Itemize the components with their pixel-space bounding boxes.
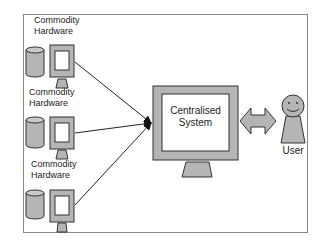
- diagram-canvas: Commodity Hardware Commodity Hardware Co…: [0, 0, 319, 247]
- hw2-label-line1: Commodity: [29, 87, 75, 97]
- hw3-label-line1: Commodity: [31, 159, 77, 169]
- database-cylinder-icon: [26, 117, 44, 148]
- database-cylinder-icon: [26, 47, 44, 77]
- central-label-line1: Centralised: [170, 105, 221, 116]
- hw1-label-line1: Commodity: [34, 15, 80, 25]
- hw1-label-line2: Hardware: [34, 26, 73, 36]
- commodity-hardware-2: Commodity Hardware: [26, 87, 75, 159]
- central-label-line2: System: [179, 117, 212, 128]
- hw3-label-line2: Hardware: [31, 170, 70, 180]
- commodity-hardware-1: Commodity Hardware: [26, 15, 80, 88]
- user-figure: User: [281, 95, 305, 156]
- hw2-label-line2: Hardware: [29, 98, 68, 108]
- database-cylinder-icon: [26, 190, 44, 219]
- user-label: User: [282, 145, 304, 156]
